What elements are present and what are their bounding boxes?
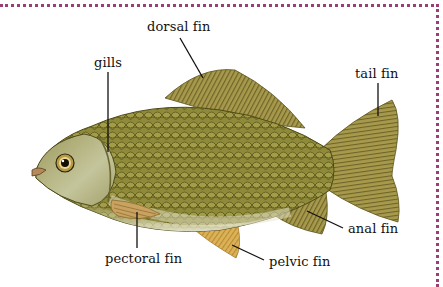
fish-anatomy-diagram: dorsal fin gills tail fin anal fin pelvi… — [0, 0, 443, 287]
label-dorsal-fin: dorsal fin — [147, 19, 210, 35]
label-pelvic-fin: pelvic fin — [269, 254, 330, 270]
label-anal-fin: anal fin — [348, 221, 398, 237]
label-tail-fin: tail fin — [355, 66, 399, 82]
label-gills: gills — [94, 55, 122, 71]
label-pectoral-fin: pectoral fin — [105, 251, 182, 267]
fish-illustration — [0, 0, 443, 287]
pointer-dorsal-fin — [180, 38, 203, 78]
